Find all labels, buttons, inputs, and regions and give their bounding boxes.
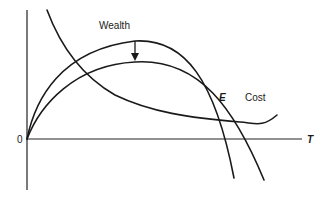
wealth-curve-upper <box>27 41 234 178</box>
cost-curve <box>47 10 277 124</box>
wealth-label: Wealth <box>99 20 130 31</box>
diagram-canvas: Wealth E Cost 0 T <box>0 0 328 199</box>
arrow-down-icon <box>131 53 139 61</box>
x-axis-label: T <box>307 134 314 145</box>
cost-label: Cost <box>245 92 266 103</box>
equilibrium-label: E <box>219 92 226 103</box>
origin-label: 0 <box>17 134 23 145</box>
